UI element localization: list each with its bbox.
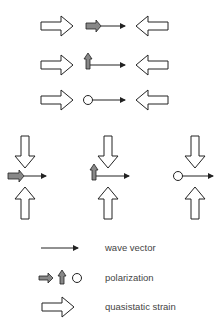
polarization-out-of-plane-icon [84, 96, 93, 105]
strain-arrow-left-icon [136, 90, 168, 110]
legend-polarization-longitudinal-icon [39, 273, 53, 283]
column-3 [174, 136, 214, 219]
row-1 [41, 16, 168, 36]
polarization-longitudinal-icon [8, 170, 24, 182]
polarization-longitudinal-icon [86, 20, 101, 32]
column-2 [90, 136, 129, 219]
row-2 [41, 53, 168, 75]
legend-symbols [39, 248, 82, 317]
strain-arrow-right-icon [41, 55, 73, 75]
legend-polarization-out-of-plane-icon [73, 274, 82, 283]
strain-arrow-up-icon [185, 187, 205, 219]
polarization-transverse-icon [90, 164, 98, 180]
polarization-out-of-plane-icon [174, 172, 183, 181]
column-1 [8, 136, 46, 219]
strain-arrow-left-icon [136, 16, 168, 36]
strain-arrow-right-icon [41, 90, 73, 110]
strain-arrow-down-icon [98, 136, 118, 168]
legend-strain-arrow-icon [42, 297, 74, 317]
strain-arrow-down-icon [185, 136, 205, 168]
legend-label-polarization: polarization [105, 272, 154, 283]
polarization-transverse-icon [84, 53, 92, 69]
strain-arrow-up-icon [98, 187, 118, 219]
strain-arrow-up-icon [15, 187, 35, 219]
strain-arrow-left-icon [136, 55, 168, 75]
legend-polarization-transverse-icon [58, 270, 66, 284]
legend-label-wave-vector: wave vector [105, 242, 156, 253]
row-3 [41, 90, 168, 110]
legend-label-quasistatic-strain: quasistatic strain [105, 301, 176, 312]
strain-arrow-down-icon [15, 136, 35, 168]
strain-arrow-right-icon [41, 16, 73, 36]
